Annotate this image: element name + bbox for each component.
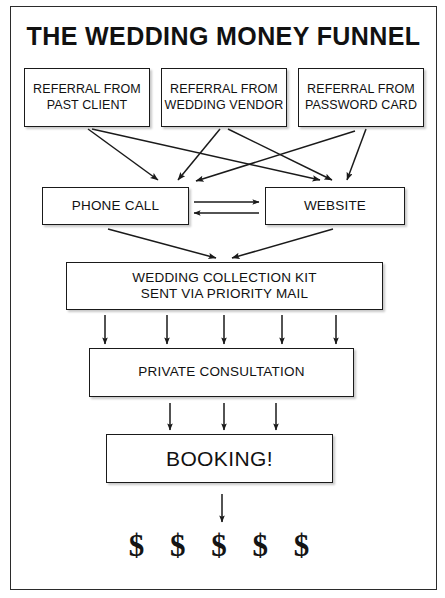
node-booking[interactable]: BOOKING! — [106, 434, 333, 483]
node-referral-wedding-vendor-line2: WEDDING VENDOR — [162, 98, 286, 113]
node-referral-past-client-text: REFERRAL FROM PAST CLIENT — [25, 82, 149, 113]
diagram-canvas: THE WEDDING MONEY FUNNEL — [0, 0, 445, 598]
node-collection-kit-text: WEDDING COLLECTION KIT SENT VIA PRIORITY… — [67, 270, 382, 303]
node-referral-wedding-vendor-text: REFERRAL FROM WEDDING VENDOR — [162, 82, 286, 113]
node-booking-label: BOOKING! — [107, 446, 332, 472]
node-collection-kit-line2: SENT VIA PRIORITY MAIL — [67, 286, 382, 302]
node-website-label: WEBSITE — [266, 198, 404, 214]
node-private-consultation[interactable]: PRIVATE CONSULTATION — [89, 348, 354, 397]
node-phone-call[interactable]: PHONE CALL — [42, 187, 189, 225]
node-private-consultation-label: PRIVATE CONSULTATION — [90, 364, 353, 380]
node-referral-past-client-line2: PAST CLIENT — [25, 98, 149, 113]
node-referral-past-client-line1: REFERRAL FROM — [25, 82, 149, 97]
node-collection-kit-line1: WEDDING COLLECTION KIT — [67, 270, 382, 286]
node-referral-wedding-vendor[interactable]: REFERRAL FROM WEDDING VENDOR — [161, 68, 287, 127]
node-phone-call-label: PHONE CALL — [43, 198, 188, 214]
node-referral-password-card-line1: REFERRAL FROM — [299, 82, 423, 97]
node-referral-wedding-vendor-line1: REFERRAL FROM — [162, 82, 286, 97]
diagram-title: THE WEDDING MONEY FUNNEL — [10, 22, 437, 51]
node-collection-kit[interactable]: WEDDING COLLECTION KIT SENT VIA PRIORITY… — [66, 262, 383, 310]
node-referral-password-card-text: REFERRAL FROM PASSWORD CARD — [299, 82, 423, 113]
node-referral-password-card[interactable]: REFERRAL FROM PASSWORD CARD — [298, 68, 424, 127]
node-referral-past-client[interactable]: REFERRAL FROM PAST CLIENT — [24, 68, 150, 127]
money-symbols: $ $ $ $ $ — [10, 528, 437, 564]
node-website[interactable]: WEBSITE — [265, 187, 405, 225]
node-referral-password-card-line2: PASSWORD CARD — [299, 98, 423, 113]
